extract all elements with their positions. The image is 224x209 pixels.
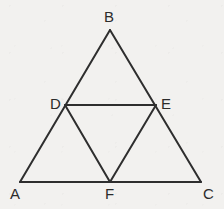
- vertex-label-F: F: [105, 186, 114, 201]
- vertex-label-C: C: [203, 186, 214, 201]
- geometry-figure: B D E A F C: [0, 0, 224, 209]
- segment-DF: [65, 105, 110, 182]
- vertex-label-A: A: [10, 186, 20, 201]
- segment-EF: [110, 105, 156, 182]
- vertex-label-B: B: [104, 9, 114, 24]
- vertex-label-E: E: [161, 96, 171, 111]
- triangle-diagram: [0, 0, 224, 209]
- vertex-label-D: D: [50, 96, 61, 111]
